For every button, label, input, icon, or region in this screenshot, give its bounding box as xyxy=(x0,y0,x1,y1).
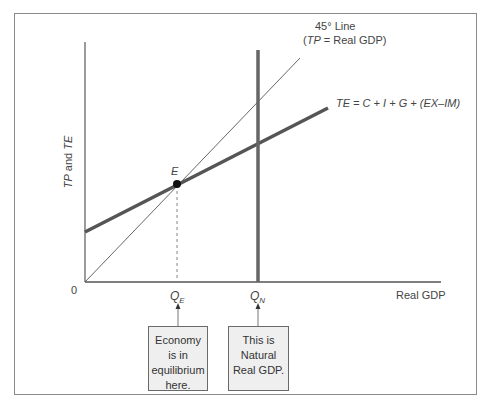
y-axis-label-te: TE xyxy=(62,136,74,150)
qn-label-sub: N xyxy=(259,296,265,305)
x-axis-label: Real GDP xyxy=(396,290,446,301)
y-axis-label-tp: TP xyxy=(62,174,74,188)
line-45-var: TP xyxy=(307,34,321,46)
line-45-rest: = Real GDP) xyxy=(321,34,387,46)
y-axis-label: TP and TE xyxy=(62,136,74,189)
line-45-degree xyxy=(85,58,300,282)
natural-gdp-note-box: This is Natural Real GDP. xyxy=(228,326,289,391)
te-line xyxy=(85,108,328,232)
box-line: Natural xyxy=(229,348,288,363)
qe-label-main: Q xyxy=(170,289,179,303)
box-line: equilibrium xyxy=(149,363,207,378)
origin-label: 0 xyxy=(71,285,77,296)
box-line: is in xyxy=(149,348,207,363)
qn-label: QN xyxy=(250,290,265,305)
line-45-subtitle: (TP = Real GDP) xyxy=(303,35,386,46)
qn-label-main: Q xyxy=(250,289,259,303)
box-line: This is xyxy=(229,333,288,348)
line-45-title: 45° Line xyxy=(315,21,356,32)
qe-label-sub: E xyxy=(179,296,184,305)
box-line: Real GDP. xyxy=(229,363,288,378)
equilibrium-label: E xyxy=(171,166,178,177)
equilibrium-point xyxy=(173,180,181,188)
qe-label: QE xyxy=(170,290,185,305)
box-line: here. xyxy=(149,378,207,393)
equilibrium-note-box: Economy is in equilibrium here. xyxy=(148,326,208,391)
te-line-label: TE = C + I + G + (EX–IM) xyxy=(336,98,460,109)
y-axis-label-and: and xyxy=(62,150,74,174)
box-line: Economy xyxy=(149,333,207,348)
